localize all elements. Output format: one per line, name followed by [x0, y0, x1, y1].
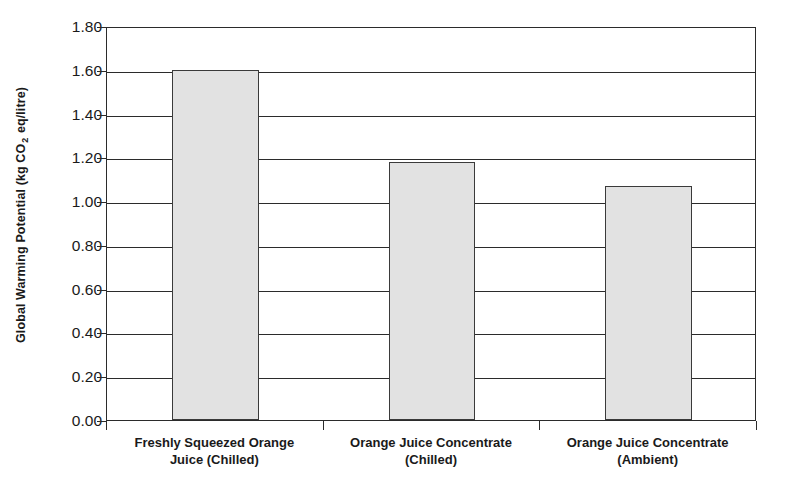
bar-chart: Global Warming Potential (kg CO2 eq/litr…	[0, 0, 786, 502]
y-axis-tick-mark	[97, 158, 106, 159]
y-axis-tick-mark	[97, 290, 106, 291]
x-axis-tick-mark	[323, 421, 324, 430]
bar	[172, 70, 259, 420]
x-axis-category-label: Orange Juice Concentrate(Chilled)	[323, 434, 540, 468]
x-axis-label-line: Freshly Squeezed Orange	[106, 434, 323, 451]
y-axis-title-after: eq/litre)	[14, 87, 28, 137]
y-axis-title: Global Warming Potential (kg CO2 eq/litr…	[0, 0, 42, 430]
y-axis-tick-labels: 0.000.200.400.600.801.001.201.401.601.80	[44, 0, 102, 440]
y-axis-tick-mark	[97, 246, 106, 247]
x-axis-tick-mark	[106, 421, 107, 430]
x-axis-label-line: Juice (Chilled)	[106, 451, 323, 468]
x-axis-tick-mark	[756, 421, 757, 430]
y-axis-tick-mark	[97, 71, 106, 72]
y-axis-tick-mark	[97, 333, 106, 334]
y-axis-title-text: Global Warming Potential (kg CO2 eq/litr…	[14, 87, 28, 343]
y-axis-tick-mark	[97, 27, 106, 28]
x-axis-label-line: Orange Juice Concentrate	[539, 434, 756, 451]
x-axis-label-line: Orange Juice Concentrate	[323, 434, 540, 451]
x-axis-category-labels: Freshly Squeezed OrangeJuice (Chilled)Or…	[106, 434, 756, 496]
bars-layer	[107, 28, 755, 420]
y-axis-tick-mark	[97, 377, 106, 378]
x-axis-category-label: Orange Juice Concentrate(Ambient)	[539, 434, 756, 468]
x-axis-tick-mark	[539, 421, 540, 430]
x-axis-label-line: (Ambient)	[539, 451, 756, 468]
y-axis-title-subscript: 2	[20, 137, 30, 144]
y-axis-tick-mark	[97, 202, 106, 203]
x-axis-category-label: Freshly Squeezed OrangeJuice (Chilled)	[106, 434, 323, 468]
x-axis-label-line: (Chilled)	[323, 451, 540, 468]
y-axis-tick-mark	[97, 115, 106, 116]
plot-area	[106, 27, 756, 421]
bar	[389, 162, 476, 420]
bar	[605, 186, 692, 420]
y-axis-title-before: Global Warming Potential (kg CO	[14, 144, 28, 343]
y-axis-tick-mark	[97, 421, 106, 422]
